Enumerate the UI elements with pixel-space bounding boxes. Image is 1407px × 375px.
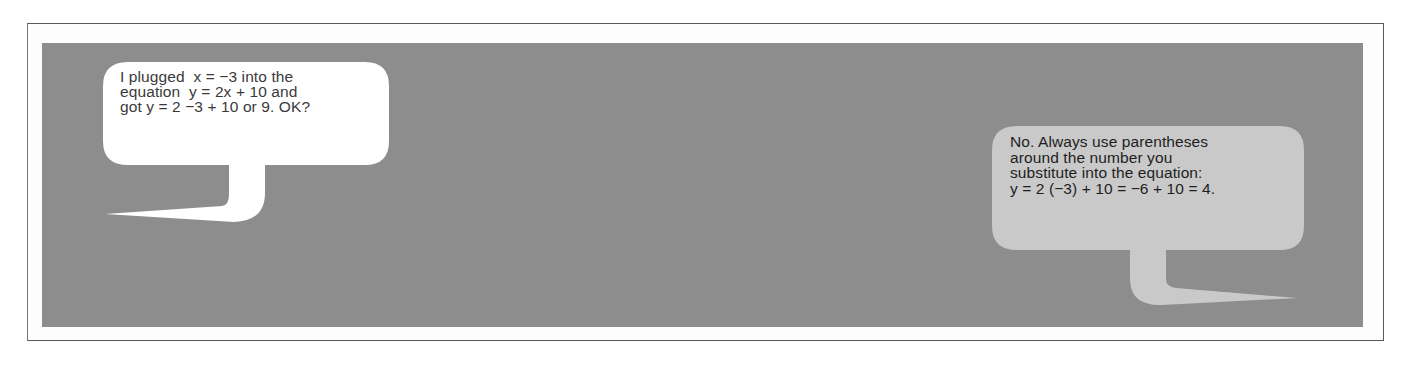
left-bubble-line-1: I plugged x = −3 into the — [120, 69, 310, 84]
left-bubble-line-2: equation y = 2x + 10 and — [120, 84, 310, 99]
right-bubble-text: No. Always use parentheses around the nu… — [1010, 134, 1215, 196]
left-bubble-line-3: got y = 2 −3 + 10 or 9. OK? — [120, 99, 310, 114]
right-bubble-line-3: substitute into the equation: — [1010, 165, 1215, 181]
right-bubble-line-2: around the number you — [1010, 150, 1215, 166]
right-bubble-line-4: y = 2 (−3) + 10 = −6 + 10 = 4. — [1010, 181, 1215, 197]
comic-panel: I plugged x = −3 into the equation y = 2… — [42, 43, 1363, 327]
right-bubble-line-1: No. Always use parentheses — [1010, 134, 1215, 150]
left-bubble-text: I plugged x = −3 into the equation y = 2… — [120, 69, 310, 114]
